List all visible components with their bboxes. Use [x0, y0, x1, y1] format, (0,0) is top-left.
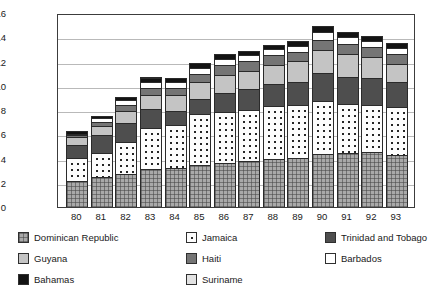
bar-segment-jamaica — [338, 105, 358, 154]
swatch-jamaica-icon — [186, 232, 197, 243]
bar-segment-guyana — [92, 127, 112, 137]
legend-item-barbados[interactable]: Barbados — [325, 253, 382, 264]
bar-segment-haiti — [362, 48, 382, 58]
legend-item-label: Bahamas — [34, 274, 74, 285]
legend-item-suriname[interactable]: Suriname — [186, 274, 243, 285]
bar-segment-guyana — [116, 112, 136, 124]
swatch-guyana-icon — [18, 253, 29, 264]
bar-segment-trinidad-and-tobago — [387, 83, 407, 108]
bar-83 — [140, 77, 162, 207]
bar-segment-guyana — [338, 55, 358, 78]
bar-segment-trinidad-and-tobago — [190, 100, 210, 116]
bar-segment-guyana — [141, 96, 161, 109]
bar-90 — [312, 26, 334, 207]
bar-segment-jamaica — [313, 102, 333, 155]
legend-item-trinidad-and-tobago[interactable]: Trinidad and Tobago — [325, 232, 427, 243]
bar-segment-jamaica — [67, 159, 87, 182]
bar-segment-dominican-republic — [387, 156, 407, 207]
swatch-bahamas-icon — [18, 274, 29, 285]
bar-segment-guyana — [313, 51, 333, 74]
legend-item-haiti[interactable]: Haiti — [186, 253, 221, 264]
bar-segment-dominican-republic — [215, 164, 235, 207]
bar-segment-barbados — [338, 38, 358, 45]
legend-item-guyana[interactable]: Guyana — [18, 253, 67, 264]
bar-segment-dominican-republic — [288, 159, 308, 207]
bar-segment-haiti — [190, 75, 210, 83]
bar-segment-dominican-republic — [116, 175, 136, 207]
bar-segment-guyana — [215, 76, 235, 94]
bar-segment-dominican-republic — [190, 166, 210, 207]
bar-segment-jamaica — [387, 108, 407, 156]
bar-segment-haiti — [288, 53, 308, 63]
swatch-dominican-republic-icon — [18, 232, 29, 243]
bar-segment-jamaica — [264, 107, 284, 160]
bar-segment-guyana — [387, 65, 407, 83]
legend-item-label: Haiti — [202, 253, 221, 264]
swatch-trinidad-and-tobago-icon — [325, 232, 336, 243]
bar-segment-dominican-republic — [92, 178, 112, 207]
bar-segment-jamaica — [92, 154, 112, 178]
legend-item-label: Dominican Republic — [34, 232, 118, 243]
bar-segment-dominican-republic — [264, 160, 284, 207]
bar-segment-guyana — [67, 138, 87, 146]
bar-segment-barbados — [313, 33, 333, 40]
y-axis-tick-label: 6 — [0, 130, 6, 140]
bar-92 — [361, 36, 383, 207]
bar-91 — [337, 32, 359, 207]
bar-segment-trinidad-and-tobago — [313, 74, 333, 102]
bar-93 — [386, 43, 408, 207]
legend-item-bahamas[interactable]: Bahamas — [18, 274, 74, 285]
bar-segment-dominican-republic — [338, 154, 358, 207]
bar-80 — [66, 131, 88, 207]
bar-segment-dominican-republic — [141, 170, 161, 207]
legend-item-dominican-republic[interactable]: Dominican Republic — [18, 232, 118, 243]
bar-segment-jamaica — [141, 129, 161, 170]
bar-segment-trinidad-and-tobago — [264, 85, 284, 107]
y-axis-tick-label: 8 — [0, 106, 6, 116]
bar-segment-jamaica — [190, 115, 210, 166]
y-axis-tick-label: 10 — [0, 82, 6, 92]
bar-segment-trinidad-and-tobago — [166, 112, 186, 126]
y-axis-tick-label: 2 — [0, 179, 6, 189]
bar-segment-haiti — [166, 89, 186, 96]
legend-item-label: Barbados — [341, 253, 382, 264]
bar-segment-haiti — [215, 66, 235, 76]
legend-item-label: Jamaica — [202, 232, 237, 243]
legend-item-label: Guyana — [34, 253, 67, 264]
y-axis-tick-label: 14 — [0, 33, 6, 43]
bar-segment-jamaica — [239, 111, 259, 163]
bar-segment-trinidad-and-tobago — [92, 136, 112, 154]
bar-segment-haiti — [338, 45, 358, 55]
bar-segment-guyana — [264, 66, 284, 85]
bar-segment-dominican-republic — [67, 182, 87, 207]
bar-segment-trinidad-and-tobago — [141, 110, 161, 129]
bar-segment-dominican-republic — [362, 153, 382, 207]
bar-segment-dominican-republic — [239, 162, 259, 207]
bar-segment-haiti — [239, 62, 259, 72]
bar-segment-dominican-republic — [313, 155, 333, 207]
bar-segment-trinidad-and-tobago — [239, 90, 259, 110]
bar-segment-guyana — [166, 96, 186, 112]
bar-89 — [287, 41, 309, 207]
bar-segment-jamaica — [215, 113, 235, 164]
chart-container: 0246810121416 80818283848586878889909192… — [0, 0, 429, 299]
swatch-suriname-icon — [186, 274, 197, 285]
bar-segment-jamaica — [116, 143, 136, 174]
bar-segment-guyana — [239, 72, 259, 90]
chart-legend: Dominican RepublicJamaicaTrinidad and To… — [0, 232, 429, 299]
y-axis-tick-label: 0 — [0, 203, 6, 213]
bar-segment-guyana — [288, 62, 308, 82]
bar-81 — [91, 116, 113, 207]
bar-segment-haiti — [264, 56, 284, 66]
bar-segment-haiti — [313, 41, 333, 52]
x-axis-tick-label: 93 — [381, 212, 411, 222]
bar-87 — [238, 51, 260, 207]
bar-segment-jamaica — [288, 106, 308, 159]
bar-85 — [189, 63, 211, 207]
bar-88 — [263, 45, 285, 207]
legend-item-jamaica[interactable]: Jamaica — [186, 232, 237, 243]
swatch-haiti-icon — [186, 253, 197, 264]
bar-segment-trinidad-and-tobago — [288, 83, 308, 106]
bar-segment-jamaica — [166, 126, 186, 168]
bar-segment-trinidad-and-tobago — [338, 78, 358, 105]
